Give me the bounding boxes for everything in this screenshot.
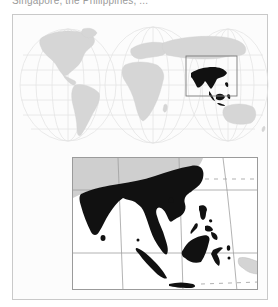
caption-text: Singapore, the Philippines, ...	[12, 0, 148, 6]
map-figure	[12, 14, 268, 300]
land-masses	[40, 28, 265, 136]
other-land-new-guinea	[238, 257, 258, 274]
inset-map	[72, 157, 258, 290]
inset-map-svg	[73, 158, 258, 290]
world-locator-map	[13, 15, 269, 155]
